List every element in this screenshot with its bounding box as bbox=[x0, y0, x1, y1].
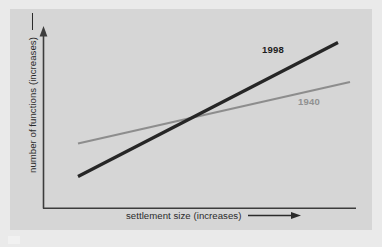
series-line-1940 bbox=[78, 82, 350, 144]
x-axis-label: settlement size (increases) bbox=[126, 210, 241, 221]
y-axis-label: number of functions (increases) bbox=[27, 37, 38, 173]
series-label-1998: 1998 bbox=[262, 44, 284, 55]
series-label-1940: 1940 bbox=[298, 96, 320, 107]
y-axis-label-rule-icon bbox=[28, 13, 37, 30]
y-axis-label-group: number of functions (increases) bbox=[23, 13, 41, 173]
arrow-right-icon bbox=[248, 211, 302, 220]
page-edge-artifact bbox=[8, 236, 20, 244]
x-axis-label-group: settlement size (increases) bbox=[126, 210, 302, 221]
series-line-1998 bbox=[78, 43, 338, 177]
chart-figure: 1998 1940 settlement size (increases) nu… bbox=[0, 0, 382, 247]
